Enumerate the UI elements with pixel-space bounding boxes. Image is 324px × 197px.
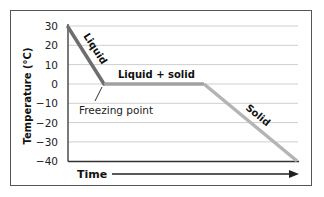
x-axis-label: Time	[77, 168, 107, 181]
solid-label: Solid	[244, 102, 273, 128]
liquid-solid-label: Liquid + solid	[118, 69, 195, 80]
ytick-label: 30	[45, 20, 58, 32]
time-arrow-head-icon	[289, 170, 299, 178]
ytick-label: −30	[36, 136, 58, 148]
ytick-label: −20	[36, 117, 58, 129]
freezing-point-pointer	[95, 87, 102, 101]
ytick-label: 10	[45, 59, 58, 71]
freezing-curve-chart: 30 20 10 0 −10 −20 −30 −40 Temperature (…	[0, 0, 324, 197]
ytick-label: 20	[45, 39, 58, 51]
ytick-label: −10	[36, 97, 58, 109]
liquid-label: Liquid	[81, 31, 109, 66]
ytick-label: −40	[36, 155, 58, 167]
y-tick-labels: 30 20 10 0 −10 −20 −30 −40	[36, 20, 58, 167]
freezing-point-label: Freezing point	[79, 104, 153, 116]
y-axis-label: Temperature (°C)	[22, 48, 33, 145]
ytick-label: 0	[51, 78, 58, 90]
